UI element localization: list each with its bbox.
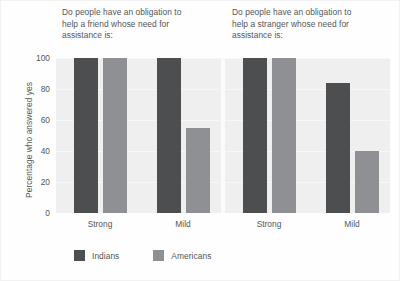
bar-stranger-strong-indians (243, 58, 267, 213)
y-axis-label: Percentage who answered yes (24, 55, 34, 225)
plot-area (56, 58, 390, 213)
bar-friend-strong-americans (103, 58, 127, 213)
bar-stranger-mild-americans (355, 151, 379, 213)
legend-item-americans: Americans (153, 250, 211, 261)
chart-figure: Do people have an obligation to help a f… (0, 0, 400, 281)
x-label-friend-mild: Mild (175, 219, 190, 229)
legend-label-indians: Indians (92, 251, 119, 261)
bar-stranger-mild-indians (326, 83, 350, 213)
x-label-friend-strong: Strong (88, 219, 113, 229)
bar-friend-mild-indians (157, 58, 181, 213)
bar-friend-strong-indians (74, 58, 98, 213)
panel-title-stranger: Do people have an obligation to help a s… (232, 7, 400, 42)
panel-title-friend: Do people have an obligation to help a f… (62, 7, 230, 42)
chart-legend: Indians Americans (74, 250, 211, 261)
legend-label-americans: Americans (171, 251, 211, 261)
legend-item-indians: Indians (74, 250, 119, 261)
legend-swatch-americans (153, 250, 164, 261)
x-label-stranger-strong: Strong (257, 219, 282, 229)
bar-friend-mild-americans (186, 128, 210, 213)
legend-swatch-indians (74, 250, 85, 261)
x-label-stranger-mild: Mild (344, 219, 359, 229)
bar-stranger-strong-americans (272, 58, 296, 213)
